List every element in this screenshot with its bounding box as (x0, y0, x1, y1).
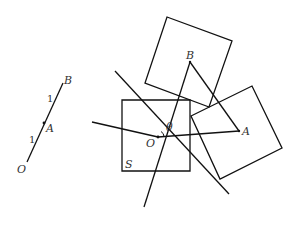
right-figure: B A O θ S (92, 17, 282, 207)
label-O: O (146, 137, 155, 150)
label-B-left: B (63, 74, 72, 87)
label-theta: θ (166, 121, 173, 134)
label-A-left: A (45, 122, 54, 135)
label-S: S (125, 158, 133, 171)
geometry-diagram: B A O 1 1 B A O θ S (0, 0, 296, 228)
point-A-dot (43, 122, 46, 125)
label-O-left: O (17, 163, 26, 176)
label-A: A (241, 125, 250, 138)
square-top (145, 17, 232, 107)
label-AB-length: 1 (47, 93, 53, 104)
square-right (191, 86, 282, 179)
label-B: B (185, 49, 194, 62)
point-A-dot-right (238, 130, 240, 132)
left-figure: B A O 1 1 (17, 74, 72, 176)
point-O-dot (157, 136, 160, 139)
line-2 (92, 122, 158, 137)
label-OA-length: 1 (29, 134, 35, 145)
angle-arc (161, 132, 164, 137)
diagram-canvas: B A O 1 1 B A O θ S (0, 0, 296, 228)
